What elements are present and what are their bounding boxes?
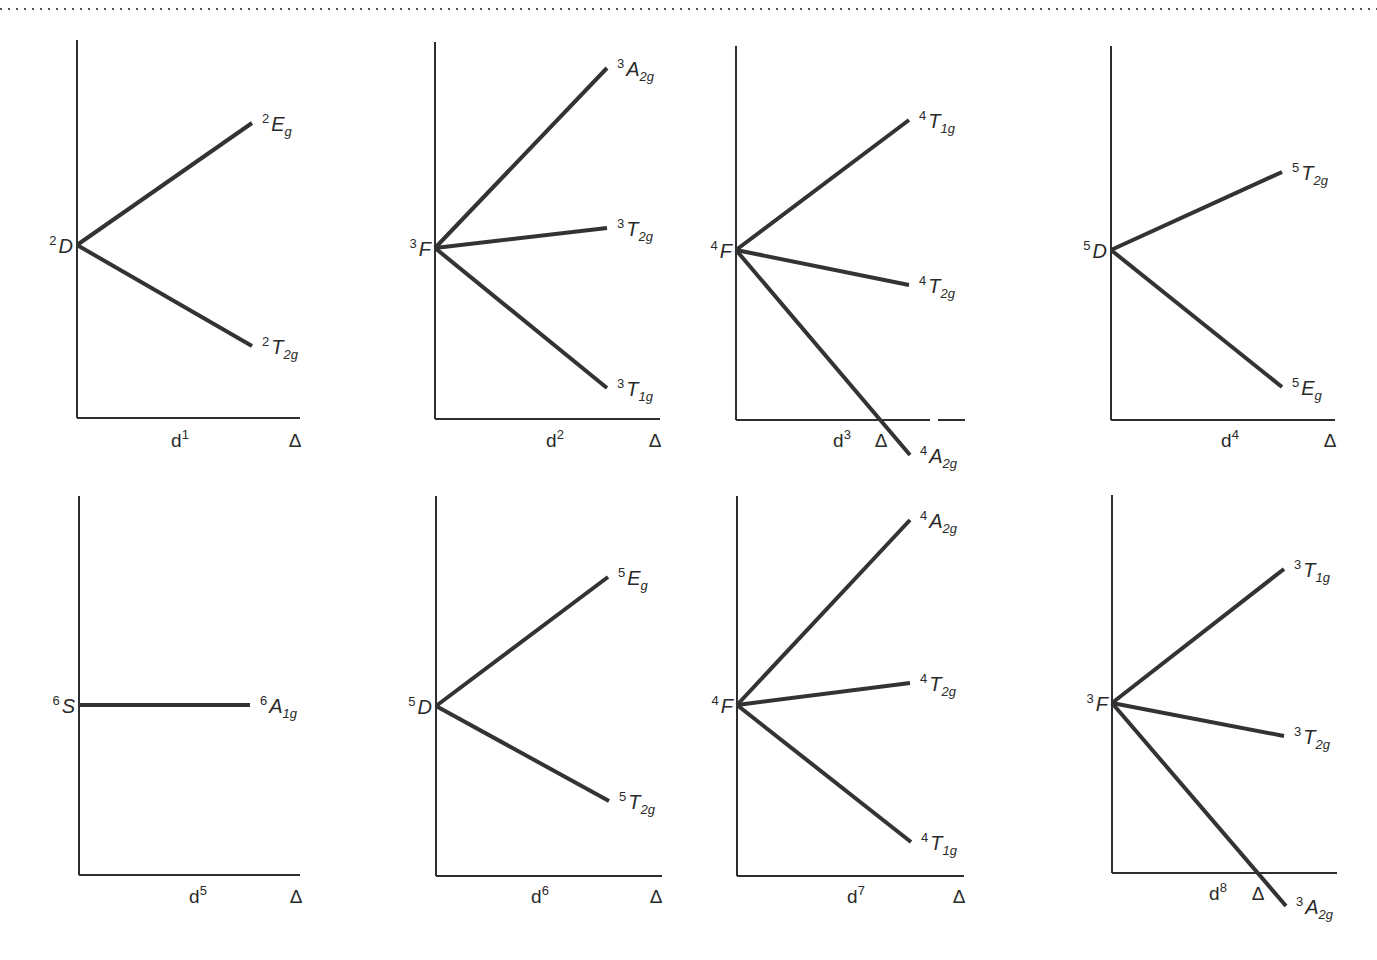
configuration-label: d1 (171, 427, 189, 451)
level-term-label: 5Eg (618, 565, 649, 593)
level-line-t2g (77, 245, 252, 346)
level-term-label: 3T1g (1294, 557, 1331, 585)
level-line-eg (436, 577, 608, 706)
delta-axis-label: Δ (289, 430, 302, 451)
level-term-label: 2T2g (262, 334, 299, 362)
level-line-t2g (435, 228, 607, 248)
level-term-label: 4T1g (919, 108, 956, 136)
panel-d8: 3F3T1g3T2g3A2gd8Δ (1087, 495, 1337, 922)
level-term-label: 4A2g (920, 508, 958, 536)
free-ion-term-label: 2D (49, 233, 73, 257)
free-ion-term-label: 6S (52, 693, 75, 717)
configuration-label: d7 (847, 883, 865, 907)
level-term-label: 3T2g (617, 216, 654, 244)
level-term-label: 4T2g (920, 671, 957, 699)
configuration-label: d8 (1209, 880, 1227, 904)
level-line-eg (77, 123, 252, 245)
level-term-label: 4A2g (920, 443, 958, 471)
configuration-label: d5 (189, 883, 207, 907)
panel-d2: 3F3A2g3T2g3T1gd2Δ (410, 42, 662, 451)
level-line-a2g (1112, 703, 1286, 906)
panel-d7: 4F4A2g4T2g4T1gd7Δ (712, 496, 966, 907)
level-line-t2g (436, 706, 609, 801)
panel-d5: 6S6A1gd5Δ (52, 496, 302, 907)
free-ion-term-label: 3F (410, 236, 433, 260)
level-line-t2g (737, 683, 910, 705)
level-term-label: 5T2g (1292, 160, 1329, 188)
level-line-t1g (737, 705, 911, 842)
free-ion-term-label: 5D (1083, 238, 1107, 262)
level-term-label: 5T2g (619, 789, 656, 817)
delta-axis-label: Δ (875, 430, 888, 451)
panel-d1: 2D2Eg2T2gd1Δ (49, 40, 301, 451)
level-line-a2g (737, 520, 910, 705)
delta-axis-label: Δ (1324, 430, 1337, 451)
level-term-label: 3A2g (617, 56, 655, 84)
delta-axis-label: Δ (953, 886, 966, 907)
level-line-eg (1111, 250, 1282, 387)
level-line-a2g (435, 68, 607, 248)
level-term-label: 6A1g (260, 693, 298, 721)
panels-group: 2D2Eg2T2gd1Δ3F3A2g3T2g3T1gd2Δ4F4T1g4T2g4… (49, 40, 1337, 922)
level-term-label: 3T1g (617, 376, 654, 404)
delta-axis-label: Δ (1252, 883, 1265, 904)
delta-axis-label: Δ (649, 430, 662, 451)
panel-d6: 5D5Eg5T2gd6Δ (408, 496, 662, 907)
level-line-t1g (435, 248, 607, 388)
delta-axis-label: Δ (290, 886, 303, 907)
level-line-t1g (736, 120, 909, 250)
level-line-t1g (1112, 569, 1284, 703)
panel-d4: 5D5T2g5Egd4Δ (1083, 46, 1336, 451)
configuration-label: d6 (531, 883, 549, 907)
diagram-canvas: 2D2Eg2T2gd1Δ3F3A2g3T2g3T1gd2Δ4F4T1g4T2g4… (0, 0, 1377, 960)
delta-axis-label: Δ (650, 886, 663, 907)
level-term-label: 4T2g (919, 273, 956, 301)
panel-d3: 4F4T1g4T2g4A2gd3Δ (711, 46, 965, 471)
free-ion-term-label: 4F (711, 238, 734, 262)
level-term-label: 3T2g (1294, 724, 1331, 752)
correlation-diagram-figure: 2D2Eg2T2gd1Δ3F3A2g3T2g3T1gd2Δ4F4T1g4T2g4… (0, 0, 1377, 960)
configuration-label: d3 (833, 427, 851, 451)
free-ion-term-label: 5D (408, 694, 432, 718)
level-line-t2g (1111, 172, 1282, 250)
level-term-label: 3A2g (1296, 894, 1334, 922)
configuration-label: d2 (546, 427, 564, 451)
configuration-label: d4 (1221, 427, 1239, 451)
level-term-label: 4T1g (921, 830, 958, 858)
level-term-label: 5Eg (1292, 375, 1323, 403)
free-ion-term-label: 4F (712, 693, 735, 717)
level-term-label: 2Eg (262, 111, 293, 139)
free-ion-term-label: 3F (1087, 691, 1110, 715)
